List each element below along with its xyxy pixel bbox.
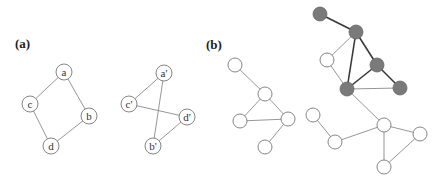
node-label: a': [161, 67, 168, 79]
graph-node-w6: [377, 160, 391, 174]
node-circle: [258, 87, 272, 101]
node-circle: [349, 25, 363, 39]
panel-b-label: (b): [206, 37, 222, 52]
graph-node-w1: [320, 53, 334, 67]
graph-node-p1: [228, 58, 242, 72]
graph-node-g1: [313, 7, 327, 21]
panel-a-label: (a): [15, 36, 30, 51]
graph-node-w4: [377, 118, 391, 132]
node-label: a: [62, 66, 67, 78]
graph-node-w3: [328, 135, 342, 149]
node-label: b: [86, 110, 92, 122]
graph-node-a: a: [56, 64, 72, 80]
node-circle: [306, 108, 320, 122]
node-circle: [258, 140, 272, 154]
node-circle: [340, 82, 354, 96]
node-circle: [233, 114, 247, 128]
node-circle: [377, 118, 391, 132]
node-label: b': [149, 140, 157, 152]
graph-node-d: d: [43, 138, 59, 154]
graph-edge-g4-g5: [347, 88, 400, 89]
graph-node-b2: b': [145, 138, 161, 154]
graph-node-g5: [393, 81, 407, 95]
node-circle: [413, 127, 427, 141]
node-circle: [370, 58, 384, 72]
nodes-layer: acbda'c'd'b': [22, 7, 427, 174]
graph-node-g4: [340, 82, 354, 96]
graph-edge-g4-w4: [347, 89, 384, 125]
graph-node-p5: [258, 140, 272, 154]
graph-node-a2: a': [156, 65, 172, 81]
node-circle: [281, 112, 295, 126]
graph-node-d2: d': [179, 109, 195, 125]
graph-node-c: c: [22, 96, 38, 112]
graph-node-g2: [349, 25, 363, 39]
graph-node-w2: [306, 108, 320, 122]
graph-edge-g2-g4: [347, 32, 356, 89]
graph-node-b: b: [81, 108, 97, 124]
graph-node-p2: [258, 87, 272, 101]
node-circle: [228, 58, 242, 72]
node-circle: [313, 7, 327, 21]
graph-node-p3: [233, 114, 247, 128]
node-label: c': [126, 98, 133, 110]
node-label: c: [28, 98, 33, 110]
node-circle: [393, 81, 407, 95]
node-label: d': [183, 111, 191, 123]
node-circle: [320, 53, 334, 67]
graph-node-w5: [413, 127, 427, 141]
graph-node-c2: c': [121, 96, 137, 112]
graph-edge-w3-w4: [335, 125, 384, 142]
node-circle: [328, 135, 342, 149]
graph-node-p4: [281, 112, 295, 126]
node-label: d: [48, 140, 54, 152]
graph-node-g3: [370, 58, 384, 72]
node-circle: [377, 160, 391, 174]
diagram-canvas: (a) (b) acbda'c'd'b': [0, 0, 446, 178]
